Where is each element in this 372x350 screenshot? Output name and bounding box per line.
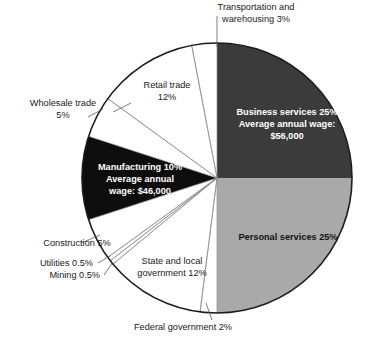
label-business-line1: Business services 25% [236, 107, 337, 117]
label-wholesale-line2: 5% [56, 110, 69, 120]
label-state-local-line2: government 12% [137, 268, 206, 278]
label-federal: Federal government 2% [134, 322, 232, 332]
label-manufacturing-line2: Average annual [106, 174, 174, 184]
label-business-line3: $56,000 [270, 131, 303, 141]
label-transportation-line2: warehousing 3% [221, 14, 290, 24]
label-mining: Mining 0.5% [49, 270, 100, 280]
pie-slice-personal-services[interactable] [217, 178, 352, 313]
label-manufacturing-line1: Manufacturing 10% [98, 162, 182, 172]
pie-chart-svg: Transportation and warehousing 3% Retail… [0, 0, 372, 350]
label-transportation-line1: Transportation and [218, 2, 295, 12]
label-retail-line2: 12% [158, 92, 176, 102]
label-personal-line1: Personal services 25% [238, 232, 337, 242]
leader-line-mining [104, 262, 113, 275]
leader-line-utilities [98, 256, 110, 263]
label-retail-line1: Retail trade [144, 80, 191, 90]
label-manufacturing-line3: wage: $46,000 [108, 186, 171, 196]
label-construction: Construction 5% [43, 238, 110, 248]
label-wholesale-line1: Wholesale trade [30, 98, 96, 108]
pie-chart-figure: Transportation and warehousing 3% Retail… [0, 0, 372, 350]
label-utilities: Utilities 0.5% [40, 258, 93, 268]
label-business-line2: Average annual wage: [239, 119, 336, 129]
label-state-local-line1: State and local [142, 256, 203, 266]
